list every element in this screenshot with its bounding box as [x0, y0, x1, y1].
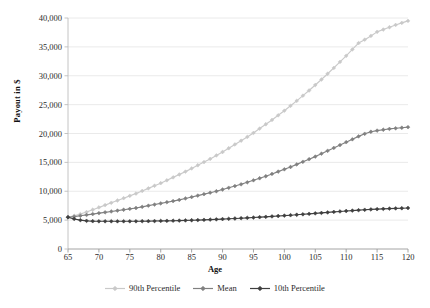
x-tick-label: 80	[156, 252, 165, 262]
legend-marker	[250, 284, 270, 293]
legend-label: Mean	[217, 283, 236, 293]
x-tick-label: 85	[187, 252, 196, 262]
x-tick-label: 90	[218, 252, 227, 262]
x-tick-label: 115	[371, 252, 383, 262]
x-tick-label: 110	[340, 252, 352, 262]
x-tick-label: 65	[64, 252, 73, 262]
legend-marker	[193, 284, 213, 293]
legend-label: 10th Percentile	[274, 283, 325, 293]
x-axis-tick-labels: 65707580859095100105110115120	[0, 0, 430, 308]
x-tick-label: 120	[402, 252, 415, 262]
x-tick-label: 70	[95, 252, 104, 262]
x-tick-label: 105	[309, 252, 322, 262]
legend-item-3[interactable]: 10th Percentile	[250, 283, 325, 293]
legend-label: 90th Percentile	[129, 283, 180, 293]
x-tick-label: 75	[126, 252, 135, 262]
legend-item-2[interactable]: Mean	[193, 283, 236, 293]
chart-figure: Payout in $ 05,00010,00015,00020,00025,0…	[0, 0, 430, 308]
x-axis-title: Age	[0, 264, 430, 274]
legend-marker	[105, 284, 125, 293]
legend-item-1[interactable]: 90th Percentile	[105, 283, 180, 293]
chart-legend: 90th PercentileMean10th Percentile	[0, 283, 430, 293]
x-tick-label: 95	[249, 252, 258, 262]
x-tick-label: 100	[278, 252, 291, 262]
